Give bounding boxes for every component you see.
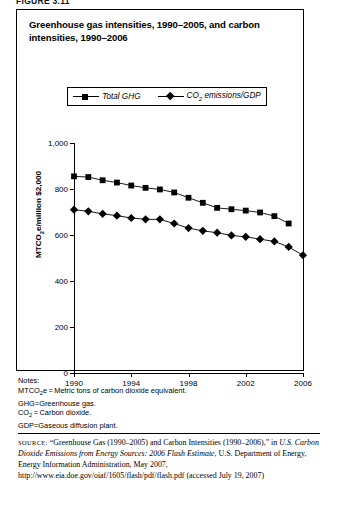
data-point-diamond <box>184 224 192 232</box>
notes-block: Notes: MTCO2e = Metric tons of carbon di… <box>18 376 318 431</box>
data-point-square <box>200 200 206 206</box>
data-point-square <box>214 205 220 211</box>
data-point-diamond <box>70 206 78 214</box>
note-line-3: GDP=Gaseous diffusion plant. <box>18 421 318 431</box>
data-point-diamond <box>227 231 235 239</box>
y-tick-label: 400 <box>55 277 68 286</box>
chart-title: Greenhouse gas intensities, 1990–2005, a… <box>29 19 284 44</box>
note-line-2: CO2 = Carbon dioxide. <box>18 408 318 421</box>
data-point-square <box>143 185 149 191</box>
data-point-square <box>257 210 263 216</box>
data-point-square <box>71 173 77 179</box>
data-point-diamond <box>213 229 221 237</box>
data-point-diamond <box>127 214 135 222</box>
data-point-diamond <box>84 207 92 215</box>
y-tick-label: 600 <box>55 231 68 240</box>
series-line-2 <box>74 210 303 256</box>
series-line-1 <box>74 176 289 223</box>
data-point-square <box>157 187 163 193</box>
data-point-diamond <box>156 215 164 223</box>
data-point-diamond <box>113 212 121 220</box>
diamond-marker-icon <box>158 93 184 100</box>
data-point-square <box>243 208 249 214</box>
source-block: SOURCE: “Greenhouse Gas (1990–2005) and … <box>18 438 320 482</box>
note-line-0: MTCO2e = Metric tons of carbon dioxide e… <box>18 386 318 399</box>
source-text: “Greenhouse Gas (1990–2005) and Carbon I… <box>50 438 279 447</box>
data-point-square <box>100 177 106 183</box>
data-point-diamond <box>270 237 278 245</box>
legend-label-co2-gdp: CO2 emissions/GDP <box>187 91 261 102</box>
legend-item-co2-gdp: CO2 emissions/GDP <box>158 91 261 102</box>
data-point-square <box>114 180 120 186</box>
data-series-layer <box>74 143 303 373</box>
data-point-diamond <box>242 233 250 241</box>
legend-label-total-ghg: Total GHG <box>102 92 140 101</box>
divider <box>18 433 320 434</box>
data-point-square <box>271 213 277 219</box>
source-label: SOURCE: <box>18 439 48 446</box>
data-point-square <box>171 190 177 196</box>
data-point-diamond <box>170 219 178 227</box>
data-point-square <box>186 195 192 201</box>
data-point-square <box>229 206 235 212</box>
y-tick-label: 1,000 <box>48 139 68 148</box>
data-point-diamond <box>99 210 107 218</box>
data-point-diamond <box>141 215 149 223</box>
square-marker-icon <box>73 93 99 100</box>
y-axis-title: MTCO2e/million $2,000 <box>34 171 45 258</box>
data-point-square <box>128 183 134 189</box>
data-point-diamond <box>285 243 293 251</box>
notes-heading: Notes: <box>18 376 318 386</box>
y-tick-label: 800 <box>55 185 68 194</box>
figure-label: FIGURE 3.11 <box>16 0 70 6</box>
plot-area: 02004006008001,000 19901994199820022006 <box>74 143 303 373</box>
data-point-diamond <box>199 227 207 235</box>
chart-legend: Total GHG CO2 emissions/GDP <box>67 87 267 106</box>
legend-item-total-ghg: Total GHG <box>73 92 140 101</box>
data-point-square <box>286 221 292 227</box>
note-line-1: GHG=Greenhouse gas. <box>18 399 318 409</box>
data-point-diamond <box>256 235 264 243</box>
y-tick-label: 200 <box>55 323 68 332</box>
figure-container: FIGURE 3.11 Greenhouse gas intensities, … <box>0 0 338 522</box>
data-point-diamond <box>299 251 307 259</box>
data-point-square <box>85 174 91 180</box>
chart-panel: Greenhouse gas intensities, 1990–2005, a… <box>16 9 304 371</box>
